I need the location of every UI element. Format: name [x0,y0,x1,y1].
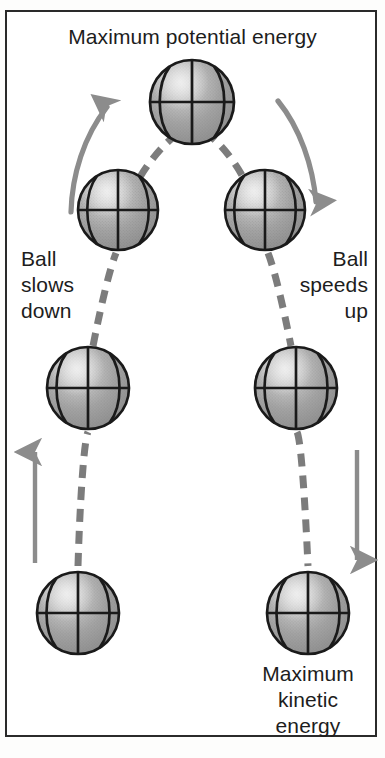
label-ball-slows-down: Ball slows down [21,246,74,324]
ball-apex [150,60,234,144]
diagram-page: Maximum potential energy Ball slows down… [0,0,385,758]
ball-upper-right [225,170,305,250]
ball-mid-left [47,347,129,429]
diagram-canvas [0,0,385,758]
ball-upper-left [78,170,158,250]
ball-mid-right [255,347,337,429]
label-maximum-kinetic-energy: Maximum kinetic energy [248,661,368,739]
ball-bottom-left [37,572,119,654]
ball-bottom-right [267,572,349,654]
label-maximum-potential-energy: Maximum potential energy [0,24,385,50]
label-ball-speeds-up: Ball speeds up [300,246,368,324]
